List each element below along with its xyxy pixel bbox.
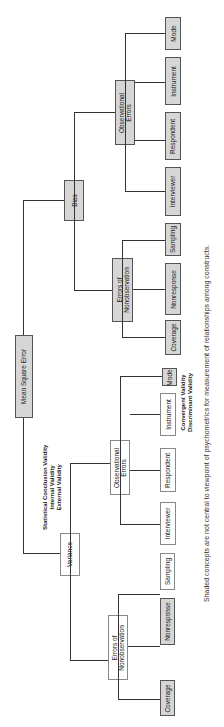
- connector: [125, 33, 165, 34]
- leaf-label: Nonresponse: [164, 602, 171, 641]
- connector: [120, 376, 121, 524]
- connector: [122, 337, 165, 338]
- node-label: Mean Square Error: [21, 349, 28, 404]
- leaf-bias-respondent: Respondent: [165, 112, 181, 160]
- leaf-label: Interviewer: [170, 176, 177, 208]
- leaf-variance-instrument: Instrument: [160, 393, 176, 436]
- connector: [74, 112, 75, 290]
- leaf-label: Instrument: [170, 66, 177, 97]
- leaf-label: Instrument: [165, 399, 172, 430]
- leaf-label: Nonresponse: [170, 270, 177, 309]
- connector: [23, 200, 64, 201]
- connector: [74, 290, 112, 291]
- leaf-variance-nonresponse: Nonresponse: [160, 598, 175, 645]
- leaf-bias-mode: Mode: [165, 17, 181, 50]
- leaf-label: Respondent: [165, 452, 172, 487]
- instrument-validity-annotation: Convergent Validity Discriminant Validit…: [180, 373, 194, 432]
- connector: [70, 660, 108, 661]
- leaf-label: Mode: [170, 25, 177, 41]
- leaf-label: Coverage: [164, 684, 171, 712]
- annotation-line: Internal Validity: [49, 445, 56, 530]
- connector: [130, 414, 160, 415]
- leaf-label: Sampling: [170, 226, 177, 253]
- connector: [118, 699, 160, 700]
- node-mean-square-error: Mean Square Error: [15, 335, 33, 418]
- connector: [130, 470, 160, 471]
- connector: [23, 553, 60, 554]
- leaf-variance-sampling: Sampling: [160, 553, 175, 590]
- leaf-bias-sampling: Sampling: [165, 223, 181, 256]
- leaf-bias-instrument: Instrument: [165, 57, 181, 105]
- connector: [125, 191, 165, 192]
- connector: [118, 594, 119, 699]
- leaf-label: Mode: [166, 369, 173, 385]
- leaf-label: Coverage: [170, 323, 177, 351]
- connector: [135, 140, 165, 141]
- connector: [122, 240, 165, 241]
- leaf-label: Respondent: [170, 118, 177, 153]
- leaf-label: Sampling: [164, 558, 171, 585]
- annotation-line: Discriminant Validity: [187, 373, 194, 432]
- leaf-label: Interviewer: [165, 508, 172, 540]
- connector: [118, 594, 160, 595]
- connector: [128, 646, 160, 647]
- connector: [120, 376, 162, 377]
- leaf-bias-nonresponse: Nonresponse: [165, 263, 181, 315]
- annotation-line: Statistical Conclusion Validity: [42, 445, 49, 530]
- leaf-variance-interviewer: Interviewer: [160, 502, 176, 545]
- figure-caption: Shaded concepts are not central to viewp…: [203, 245, 210, 602]
- leaf-bias-coverage: Coverage: [165, 320, 181, 355]
- connector: [70, 463, 71, 660]
- leaf-variance-respondent: Respondent: [160, 448, 176, 492]
- connector: [133, 289, 165, 290]
- leaf-variance-coverage: Coverage: [160, 680, 175, 716]
- connector: [135, 82, 165, 83]
- connector: [70, 463, 110, 464]
- leaf-bias-interviewer: Interviewer: [165, 167, 181, 216]
- connector: [125, 33, 126, 191]
- connector: [74, 112, 115, 113]
- annotation-line: External Validity: [56, 445, 63, 530]
- connector: [122, 240, 123, 337]
- annotation-line: Convergent Validity: [180, 373, 187, 432]
- connector: [120, 524, 160, 525]
- variance-validity-annotation: Statistical Conclusion Validity Internal…: [42, 445, 63, 530]
- leaf-variance-mode: Mode: [162, 368, 177, 386]
